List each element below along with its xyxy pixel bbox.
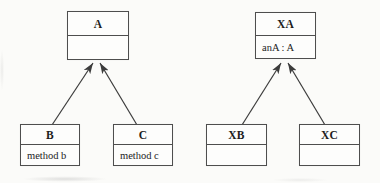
class-attribute-compartment (207, 145, 266, 165)
class-name-label: XB (207, 125, 266, 145)
class-name-label: C (114, 125, 172, 145)
class-box-a: A (67, 11, 129, 60)
class-name-label: B (21, 125, 79, 145)
class-box-xb: XB (206, 124, 267, 166)
inheritance-arrow-b-to-a (52, 63, 93, 125)
class-box-b: Bmethod b (20, 124, 80, 166)
class-box-xa: XAanA : A (255, 12, 316, 59)
class-attribute-compartment: anA : A (256, 36, 315, 58)
inheritance-arrow-c-to-a (100, 63, 137, 125)
uml-diagram-canvas: AXAanA : ABmethod bCmethod cXBXC (0, 0, 380, 183)
class-name-label: XA (256, 13, 315, 36)
class-attribute-compartment: method c (114, 145, 172, 165)
class-attribute-compartment: method b (21, 145, 79, 165)
class-box-xc: XC (299, 124, 360, 166)
class-attribute-compartment (68, 36, 128, 59)
class-box-c: Cmethod c (113, 124, 173, 166)
inheritance-arrow-xb-to-xa (242, 63, 281, 125)
class-name-label: XC (300, 125, 359, 145)
inheritance-arrow-xc-to-xa (288, 63, 325, 125)
class-name-label: A (68, 12, 128, 36)
class-attribute-compartment (300, 145, 359, 165)
